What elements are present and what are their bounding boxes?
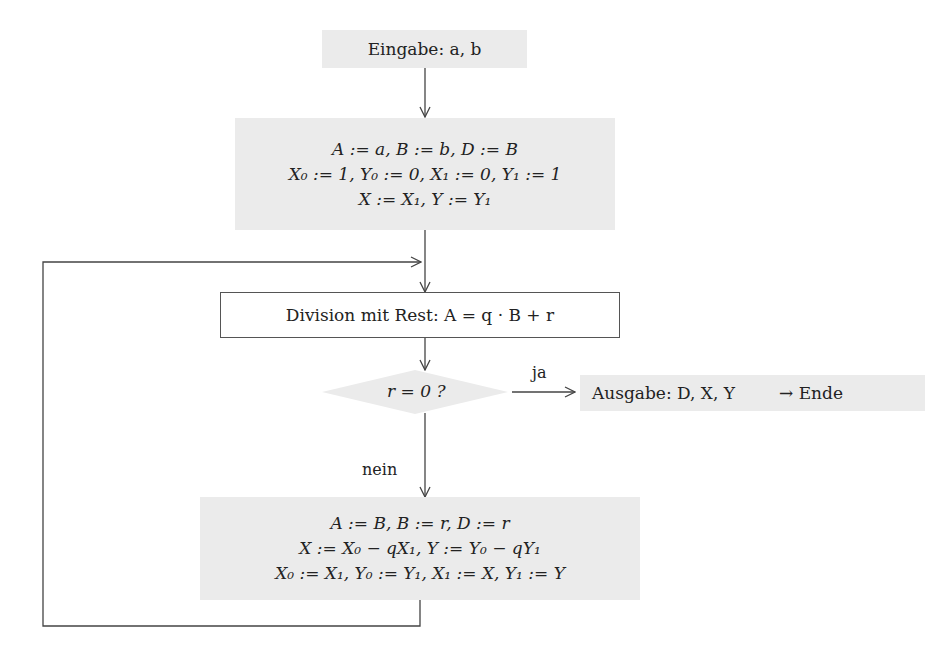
update-box: A := B, B := r, D := r X := X₀ − qX₁, Y … [200, 497, 640, 600]
input-box: Eingabe: a, b [322, 30, 527, 68]
init-box: A := a, B := b, D := B X₀ := 1, Y₀ := 0,… [235, 118, 615, 230]
no-label: nein [362, 460, 397, 479]
end-label: → Ende [779, 381, 843, 406]
input-label: Eingabe: a, b [368, 37, 482, 62]
division-label: Division mit Rest: A = q · B + r [286, 303, 554, 328]
update-line-2: X := X₀ − qX₁, Y := Y₀ − qY₁ [299, 536, 540, 561]
init-line-1: A := a, B := b, D := B [332, 137, 518, 162]
yes-label: ja [532, 363, 547, 382]
init-line-2: X₀ := 1, Y₀ := 0, X₁ := 0, Y₁ := 1 [289, 162, 562, 187]
division-box: Division mit Rest: A = q · B + r [220, 292, 620, 338]
update-line-1: A := B, B := r, D := r [330, 511, 509, 536]
decision-label: r = 0 ? [387, 381, 446, 401]
update-line-3: X₀ := X₁, Y₀ := Y₁, X₁ := X, Y₁ := Y [275, 561, 565, 586]
output-box: Ausgabe: D, X, Y → Ende [580, 375, 925, 411]
init-line-3: X := X₁, Y := Y₁ [359, 187, 492, 212]
output-label: Ausgabe: D, X, Y [592, 381, 735, 406]
